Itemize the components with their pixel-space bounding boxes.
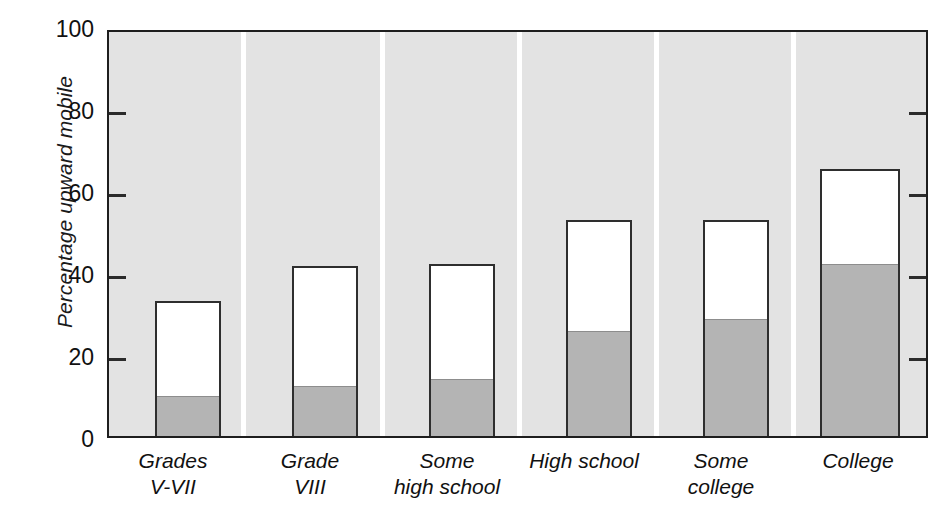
y-tick-label-100: 100 bbox=[8, 18, 94, 41]
x-category-line1: Some bbox=[420, 449, 475, 472]
x-category-label-0: Grades V-VII bbox=[107, 448, 239, 499]
panel-separator-4 bbox=[654, 32, 659, 436]
panel-separator-2 bbox=[380, 32, 385, 436]
y-tick-label-80: 80 bbox=[8, 100, 94, 123]
y-tick-mark-40-left bbox=[109, 276, 126, 279]
x-category-line2: V-VII bbox=[107, 474, 239, 500]
bar-lower-segment bbox=[568, 331, 630, 436]
bar-high-school bbox=[566, 220, 632, 436]
y-axis-tick-labels: 100 80 60 40 20 0 bbox=[0, 0, 94, 532]
x-category-label-1: Grade VIII bbox=[244, 448, 376, 499]
panel-separator-1 bbox=[241, 32, 246, 436]
bar-lower-segment bbox=[431, 379, 493, 436]
x-category-line1: Grade bbox=[281, 449, 339, 472]
bar-grade-viii bbox=[292, 266, 358, 436]
bar-lower-segment bbox=[705, 319, 767, 436]
x-category-line1: College bbox=[822, 449, 893, 472]
panel-separator-5 bbox=[791, 32, 796, 436]
x-category-line1: High school bbox=[529, 449, 639, 472]
bar-college bbox=[820, 169, 900, 436]
y-tick-mark-60-left bbox=[109, 194, 126, 197]
y-tick-mark-60-right bbox=[909, 194, 926, 197]
y-tick-label-60: 60 bbox=[8, 182, 94, 205]
x-category-line1: Some bbox=[694, 449, 749, 472]
bar-lower-segment bbox=[294, 386, 356, 437]
y-tick-mark-80-left bbox=[109, 112, 126, 115]
bar-chart: Percentage upward mobile 100 80 60 40 20… bbox=[0, 0, 952, 532]
bar-lower-segment bbox=[822, 264, 898, 436]
y-tick-mark-40-right bbox=[909, 276, 926, 279]
panel-separator-3 bbox=[517, 32, 522, 436]
x-category-label-3: High school bbox=[518, 448, 650, 474]
y-tick-label-0: 0 bbox=[8, 428, 94, 451]
x-category-line2: high school bbox=[381, 474, 513, 500]
bar-grades-v-vii bbox=[155, 301, 221, 436]
y-tick-mark-20-right bbox=[909, 358, 926, 361]
bar-some-college bbox=[703, 220, 769, 436]
bar-some-high-school bbox=[429, 264, 495, 436]
bar-lower-segment bbox=[157, 396, 219, 436]
y-tick-label-20: 20 bbox=[8, 346, 94, 369]
y-tick-label-40: 40 bbox=[8, 264, 94, 287]
x-category-line2: VIII bbox=[244, 474, 376, 500]
x-category-label-5: College bbox=[792, 448, 924, 474]
x-axis-category-labels: Grades V-VII Grade VIII Some high school… bbox=[107, 448, 928, 528]
y-tick-mark-20-left bbox=[109, 358, 126, 361]
x-category-label-4: Some college bbox=[655, 448, 787, 499]
x-category-line1: Grades bbox=[139, 449, 208, 472]
x-category-line2: college bbox=[655, 474, 787, 500]
y-tick-mark-80-right bbox=[909, 112, 926, 115]
x-category-label-2: Some high school bbox=[381, 448, 513, 499]
plot-area bbox=[107, 30, 928, 438]
